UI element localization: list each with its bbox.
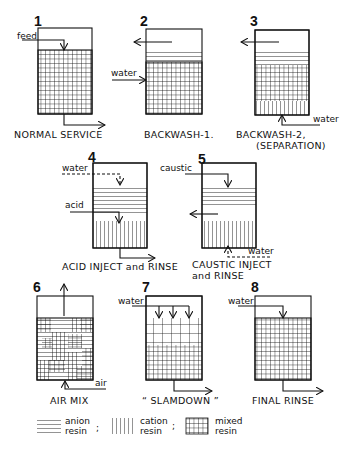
cation-resin-layer (255, 101, 309, 115)
step-caption: CAUSTIC INJECT (192, 259, 272, 270)
anion-resin-layer (255, 52, 309, 65)
mixed-resin-bed (146, 345, 202, 380)
step-number: 2 (140, 13, 148, 29)
step-caption: BACKWASH-1. (144, 129, 214, 140)
legend-label: resin (215, 426, 237, 436)
legend-label: resin (65, 426, 87, 436)
mixed-resin-bed (38, 50, 92, 114)
step-caption: BACKWASH-2, (236, 129, 306, 140)
step-caption: “ SLAMDOWN ” (142, 395, 219, 406)
water-label: water (248, 246, 274, 256)
caustic-label: caustic (160, 163, 192, 173)
legend-item-anion: anion resin ; (37, 416, 99, 436)
feed-arrow-icon (22, 40, 64, 50)
step-caption-line2: and RINSE (192, 270, 244, 281)
cation-resin-layer (93, 221, 147, 248)
grid-swatch-icon (186, 418, 208, 434)
mixed-resin-bed (146, 62, 202, 114)
legend-label: anion (65, 416, 90, 426)
water-label: water (118, 296, 144, 306)
water-arrow-icon (238, 306, 283, 318)
air-label: air (95, 378, 107, 388)
step-2-backwash-1: 2 water BACKWASH-1. (111, 13, 214, 140)
step-7-slamdown: 7 water “ SLAMDOWN ” (118, 279, 219, 406)
mixing-resin-bed (37, 318, 93, 380)
regeneration-diagram: 1 feed NORMAL SERVICE 2 water BACKWASH-1… (0, 0, 348, 455)
svg-text:;: ; (96, 423, 99, 433)
step-caption: FINAL RINSE (252, 395, 314, 406)
mixed-resin-bed (255, 318, 311, 380)
anion-resin-layer (146, 52, 202, 62)
mixed-resin-layer (255, 65, 309, 101)
step-number: 8 (251, 279, 259, 295)
water-label: water (62, 163, 88, 173)
step-number: 3 (250, 13, 258, 29)
cation-resin-layer (202, 221, 256, 248)
step-caption: ACID INJECT and RINSE (62, 261, 178, 272)
anion-resin-layer (202, 185, 256, 206)
svg-text:;: ; (172, 421, 175, 431)
legend-label: mixed (215, 416, 243, 426)
outlet-arrow-icon (64, 114, 105, 125)
water-label: water (228, 296, 254, 306)
outlet-arrow-icon (174, 380, 212, 391)
legend-label: cation (140, 416, 168, 426)
step-number: 7 (142, 279, 150, 295)
step-caption: NORMAL SERVICE (14, 129, 102, 140)
legend-item-cation: cation resin ; (112, 416, 175, 436)
step-8-final-rinse: 8 water FINAL RINSE (228, 279, 323, 406)
outlet-arrow-icon (283, 380, 323, 391)
step-3-backwash-2: 3 water BACKWASH-2, (SEPARATION) (236, 13, 339, 151)
step-caption: AIR MIX (50, 395, 89, 406)
legend-item-mixed: mixed resin (186, 416, 243, 436)
legend-label: resin (140, 426, 162, 436)
step-1-normal-service: 1 feed NORMAL SERVICE (14, 13, 105, 140)
step-number: 6 (33, 279, 41, 295)
mixed-resin-loose-layer (146, 318, 202, 345)
horizontal-lines-swatch-icon (37, 418, 61, 433)
water-arrow-icon (62, 174, 120, 185)
step-6-air-mix: 6 air AIR MIX (33, 279, 107, 406)
step-number: 1 (34, 13, 42, 29)
acid-label: acid (65, 200, 84, 210)
vertical-lines-swatch-icon (112, 418, 136, 434)
legend: anion resin ; cation resin ; mixed resin (37, 416, 243, 436)
step-caption-line2: (SEPARATION) (256, 140, 326, 151)
water-label: water (111, 68, 137, 78)
anion-resin-layer (93, 185, 147, 213)
outlet-arrow-icon (120, 248, 155, 258)
water-label: water (313, 114, 339, 124)
